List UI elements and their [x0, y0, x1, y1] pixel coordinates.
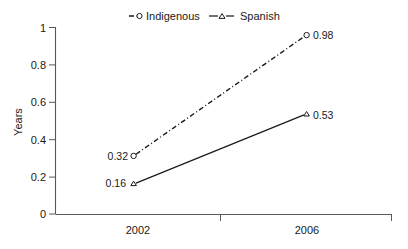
y-tick-label-06: 0.6: [31, 96, 46, 108]
y-axis: 1 0.8 0.6 0.4 0.2 0 Years: [12, 22, 56, 221]
data-label-indigenous-2006: 0.98: [313, 29, 334, 41]
data-label-indigenous-2002: 0.32: [108, 150, 129, 162]
x-tick-label-2002: 2002: [126, 224, 150, 236]
data-point-indigenous-2006: [304, 32, 309, 37]
y-tick-label-1: 1: [40, 22, 46, 34]
open-triangle-icon: [219, 14, 225, 19]
data-point-indigenous-2002: [131, 153, 136, 158]
series-spanish: 0.16 0.53: [106, 109, 334, 190]
open-circle-icon: [137, 13, 142, 18]
chart-canvas: Indigenous Spanish 1 0.8 0.6 0.4 0.2 0: [0, 0, 408, 249]
y-tick-label-04: 0.4: [31, 134, 46, 146]
series-line-spanish: [136, 115, 304, 183]
series-indigenous: 0.32 0.98: [108, 29, 334, 162]
x-axis: 2002 2006: [56, 215, 393, 237]
data-label-spanish-2006: 0.53: [313, 109, 334, 121]
legend-label-spanish: Spanish: [240, 10, 280, 22]
x-tick-label-2006: 2006: [295, 224, 319, 236]
line-chart: Indigenous Spanish 1 0.8 0.6 0.4 0.2 0: [0, 0, 408, 249]
legend-item-indigenous[interactable]: Indigenous: [129, 10, 200, 22]
y-axis-title: Years: [12, 108, 24, 136]
legend-label-indigenous: Indigenous: [146, 10, 200, 22]
legend-item-spanish[interactable]: Spanish: [209, 10, 280, 22]
y-tick-label-0: 0: [40, 208, 46, 220]
data-point-spanish-2006: [304, 112, 310, 117]
data-label-spanish-2002: 0.16: [106, 177, 127, 189]
chart-legend: Indigenous Spanish: [129, 10, 280, 22]
series-line-indigenous: [136, 37, 304, 155]
data-point-spanish-2002: [131, 181, 137, 186]
y-tick-label-08: 0.8: [31, 59, 46, 71]
y-tick-label-02: 0.2: [31, 171, 46, 183]
